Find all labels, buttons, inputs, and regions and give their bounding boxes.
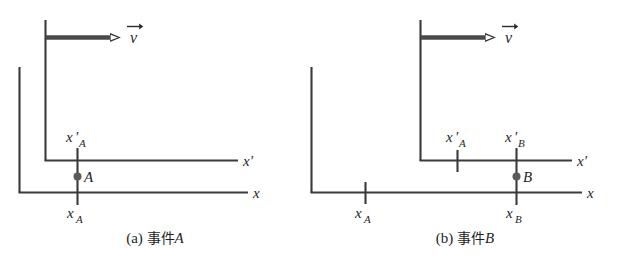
velocity-label-text-b: v [505,29,513,46]
axis-name-xprime-base-a: x' [242,153,254,169]
label-x-a-sub-b: A [363,213,371,225]
label-xprime-b-base-b: x [504,129,512,145]
velocity-label-a: v [127,24,143,46]
velocity-label-text-a: v [130,29,138,46]
caption-cjk-b: 事件 [457,230,485,246]
event-dot-b [513,173,521,181]
label-xprime-b-b: x ′ B [504,129,525,149]
axis-name-x-base-a: x [252,185,260,201]
vector-accent-head-b [514,24,518,30]
axis-name-xprime-base-b: x' [576,153,588,169]
label-x-a-b: x A [354,205,371,225]
moving-frame-b [420,20,573,161]
event-dot-a [74,173,82,181]
axis-name-x-b: x [586,185,594,201]
diagram-b: v x ′ A x ′ B B [310,0,620,225]
caption-cjk-a: 事件 [147,230,175,246]
label-xprime-a-sub-a: A [78,137,86,149]
axis-name-x-a: x [252,185,260,201]
figure-root: v x ′ A A x A x' x [0,0,621,271]
label-x-b-b: x B [505,205,522,225]
caption-symbol-a: A [175,230,184,246]
label-xprime-a-b: x ′ A [445,129,466,149]
moving-frame-a [45,20,239,161]
label-xprime-a-a: x ′ A [65,129,86,149]
event-label-a: A [83,169,94,185]
event-label-b: B [523,169,532,185]
stationary-frame-a [19,67,249,193]
diagram-a: v x ′ A A x A x' x [0,0,310,225]
label-x-a-base-b: x [354,205,362,221]
label-xprime-a-base-a: x [65,129,73,145]
velocity-label-b: v [502,24,518,46]
label-x-a-sub-a: A [75,213,83,225]
label-x-b-sub-b: B [515,213,522,225]
vector-accent-head-a [139,24,143,30]
label-xprime-a-base-b: x [445,129,453,145]
caption-symbol-b: B [485,230,494,246]
caption-index-a: (a) [126,230,143,246]
label-xprime-a-sub-b: A [458,137,466,149]
axis-name-xprime-b: x' [576,153,588,169]
label-x-a-base-a: x [66,205,74,221]
caption-b: (b) 事件B [310,228,620,248]
panel-event-a: v x ′ A A x A x' x [0,0,310,271]
label-xprime-b-sub-b: B [518,137,525,149]
label-x-a-a: x A [66,205,83,225]
axis-name-xprime-a: x' [242,153,254,169]
panel-event-b: v x ′ A x ′ B B [310,0,620,271]
axis-name-x-base-b: x [586,185,594,201]
caption-index-b: (b) [436,230,454,246]
label-x-b-base-b: x [505,205,513,221]
caption-a: (a) 事件A [0,228,310,248]
